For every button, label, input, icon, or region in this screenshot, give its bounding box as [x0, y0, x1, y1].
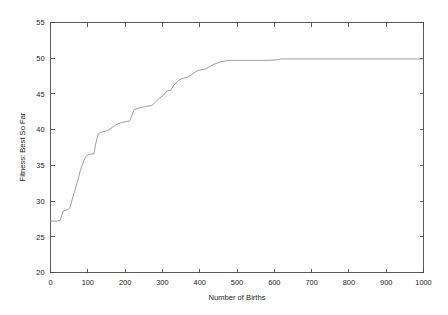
x-tick-label: 1000 [415, 278, 431, 287]
y-tick-label: 20 [36, 268, 44, 277]
x-tick-label: 600 [268, 278, 280, 287]
x-tick-label: 400 [194, 278, 206, 287]
y-tick-label: 45 [36, 90, 44, 99]
y-tick-label: 55 [36, 18, 44, 27]
x-tick-label: 100 [82, 278, 94, 287]
y-axis-title: Fitness: Best So Far [18, 112, 27, 181]
x-tick-label: 700 [305, 278, 317, 287]
x-tick-label: 0 [48, 278, 52, 287]
y-tick-label: 40 [36, 125, 44, 134]
x-tick-label: 800 [343, 278, 355, 287]
y-tick-label: 25 [36, 233, 44, 242]
y-tick-label: 35 [36, 161, 44, 170]
plot-canvas: 01002003004005006007008009001000 2025303… [0, 0, 448, 315]
data-series-group [51, 59, 424, 221]
x-tick-label: 200 [119, 278, 131, 287]
data-line-best-so-far [51, 59, 424, 221]
x-tick-label: 900 [380, 278, 392, 287]
y-tick-label: 50 [36, 54, 44, 63]
x-tick-label: 500 [231, 278, 243, 287]
fitness-chart-figure: 01002003004005006007008009001000 2025303… [0, 0, 448, 315]
y-tick-labels: 2025303540455055 [36, 18, 44, 277]
y-tick-label: 30 [36, 197, 44, 206]
x-tick-label: 300 [156, 278, 168, 287]
x-axis-title: Number of Births [209, 293, 266, 302]
x-tick-labels: 01002003004005006007008009001000 [48, 278, 431, 287]
